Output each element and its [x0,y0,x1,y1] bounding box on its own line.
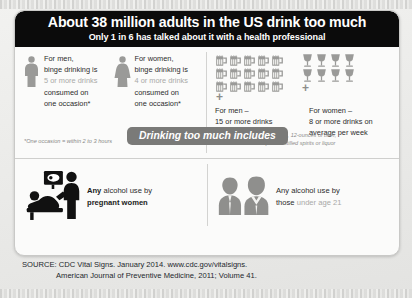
beer-mug-icon [229,53,243,66]
binge-women-text: For women, binge drinking is 4 or more d… [135,53,188,109]
male-silhouette-icon [23,53,40,109]
infographic-card: About 38 million adults in the US drink … [14,10,400,256]
beer-mug-icon [215,53,229,66]
under21-line2: those under age 21 [276,197,341,209]
beer-mug-icon [243,53,257,66]
beer-mug-icon [271,79,285,92]
header-banner: About 38 million adults in the US drink … [15,11,399,47]
binge-men-line5: one occasion* [44,98,97,109]
source-line2: American Journal of Preventive Medicine,… [22,270,257,281]
wine-glass-icon [329,68,343,83]
beer-mug-icon [257,79,271,92]
binge-women-line2: binge drinking is [135,64,188,75]
binge-men-highlight: 5 or more drinks [44,75,97,86]
wine-glass-grid: + [301,53,363,94]
wine-plus-sign: + [302,83,309,94]
heavy-women-block: + [301,53,363,103]
includes-row: Any alcohol use by pregnant women [15,159,399,231]
under21-highlight: under age 21 [297,198,342,207]
source-citation: SOURCE: CDC Vital Signs. January 2014. w… [22,259,257,282]
page-subtitle: Only 1 in 6 has talked about it with a h… [23,32,391,42]
binge-men-block: For men, binge drinking is 5 or more dri… [23,53,110,109]
beer-mug-grid: + [215,53,289,103]
page-title: About 38 million adults in the US drink … [23,15,391,30]
binge-men-line4: consumed on [44,87,97,98]
pregnant-ultrasound-icon [25,169,87,225]
binge-men-line2: binge drinking is [44,64,97,75]
wine-glass-icon [343,68,357,83]
wine-glass-icon [329,53,343,68]
source-line1: SOURCE: CDC Vital Signs. January 2014. w… [22,259,257,270]
under21-line1: Any alcohol use by [276,185,341,197]
beer-mug-icon [257,53,271,66]
wine-glass-icon [343,53,357,68]
heavy-men-block: + [215,53,289,103]
beer-mug-icon [215,66,229,79]
torn-paper-edge-bottom [0,289,412,298]
beer-mug-icon [257,66,271,79]
female-silhouette-icon [114,53,131,109]
heavy-women-line1: 8 or more drinks on [309,116,393,127]
binge-women-line1: For women, [135,53,188,64]
pregnant-text: Any alcohol use by pregnant women [87,185,152,209]
pregnant-rest: alcohol use by [101,186,152,195]
under21-text: Any alcohol use by those under age 21 [276,185,341,209]
heavy-men-line1: 15 or more drinks [215,116,299,127]
beer-mug-icon [229,79,243,92]
beer-plus-sign: + [216,92,223,103]
binge-women-block: For women, binge drinking is 4 or more d… [114,53,201,109]
pregnant-line2: pregnant women [87,198,148,207]
binge-men-text: For men, binge drinking is 5 or more dri… [44,53,97,109]
heavy-men-label: For men – [215,105,299,116]
infographic-page: About 38 million adults in the US drink … [0,0,412,298]
binge-women-line4: consumed on [135,87,188,98]
pregnant-strong: Any [87,186,101,195]
beer-mug-icon [243,66,257,79]
torn-paper-edge-top [0,0,412,9]
binge-footnote: *One occasion = within 2 to 3 hours [24,138,112,144]
wine-glass-icon [315,53,329,68]
wine-glass-icon [301,53,315,68]
under21-line2-plain: those [276,198,297,207]
beer-mug-icon [271,53,285,66]
beer-mug-icon [243,79,257,92]
under21-panel: Any alcohol use by those under age 21 [208,159,399,231]
includes-banner: Drinking too much includes [127,127,288,145]
two-young-people-icon [218,174,276,219]
binge-women-line5: one occasion* [135,98,188,109]
pregnant-line1: Any alcohol use by [87,185,152,197]
beer-mug-icon [229,66,243,79]
binge-women-highlight: 4 or more drinks [135,75,188,86]
wine-glass-icon [315,68,329,83]
heavy-women-label: For women – [309,105,393,116]
binge-men-line1: For men, [44,53,97,64]
beer-mug-icon [271,66,285,79]
pregnant-panel: Any alcohol use by pregnant women [15,159,207,231]
